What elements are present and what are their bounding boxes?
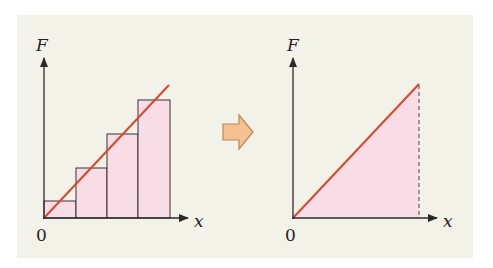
y-axis-label: F	[35, 35, 49, 55]
origin-label: 0	[36, 225, 47, 245]
right-plot-integral-area: F x 0	[285, 35, 453, 245]
y-axis-label: F	[286, 35, 300, 55]
right-arrow-icon	[223, 115, 253, 149]
x-axis-label: x	[443, 211, 453, 231]
work-diagram: F x 0 F x 0	[0, 0, 493, 268]
bar-2	[76, 168, 107, 218]
left-plot-riemann-bars: F x 0	[35, 35, 204, 245]
bar-1	[44, 201, 76, 218]
bar-4	[138, 100, 170, 218]
x-axis-label: x	[194, 211, 204, 231]
origin-label: 0	[285, 225, 296, 245]
